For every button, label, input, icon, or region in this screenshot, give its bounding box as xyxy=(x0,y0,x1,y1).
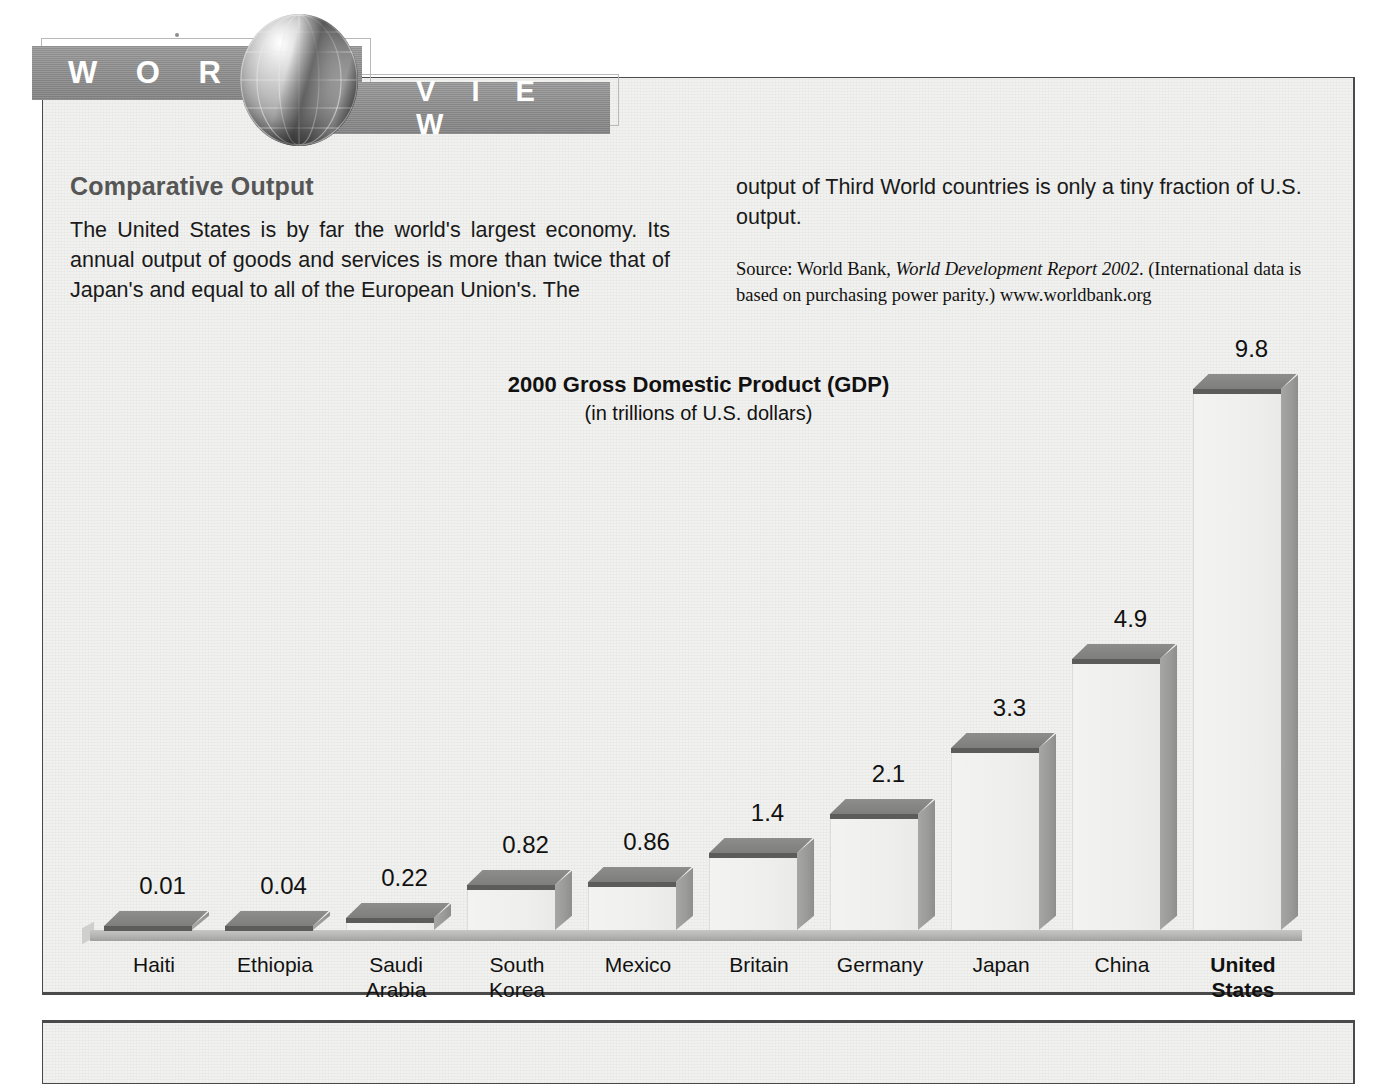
page-background: W O R L D V I E W xyxy=(0,0,1400,1084)
bar-front-face xyxy=(1193,389,1282,930)
bar-value-label: 3.3 xyxy=(957,694,1062,722)
chart-category-label: Germany xyxy=(818,952,942,977)
source-prefix: Source: World Bank, xyxy=(736,259,896,279)
chart-bar xyxy=(951,748,1039,930)
chart-category-label: Ethiopia xyxy=(213,952,337,977)
bar-top-face xyxy=(1193,374,1297,389)
bar-front-face xyxy=(830,814,919,930)
bar-top-face xyxy=(588,867,692,882)
bar-top-edge xyxy=(709,853,797,858)
bar-top-edge xyxy=(830,814,918,819)
page-title: Comparative Output xyxy=(70,172,670,201)
bar-value-label: 0.82 xyxy=(473,831,578,859)
bar-front-face xyxy=(951,748,1040,930)
globe-icon xyxy=(240,14,358,146)
bar-front-face xyxy=(588,882,677,930)
bar-side-face xyxy=(1281,374,1298,930)
masthead: W O R L D V I E W xyxy=(0,0,640,165)
bar-top-edge xyxy=(951,748,1039,753)
bar-front-face xyxy=(709,853,798,930)
bar-value-label: 2.1 xyxy=(836,760,941,788)
bar-top-face xyxy=(346,903,450,918)
bar-top-face xyxy=(104,911,208,926)
chart-category-label: Haiti xyxy=(92,952,216,977)
bar-top-face xyxy=(830,799,934,814)
registration-dot-icon xyxy=(175,33,179,37)
chart-bar xyxy=(830,814,918,930)
right-column: output of Third World countries is only … xyxy=(736,172,1336,308)
bar-top-edge xyxy=(588,882,676,887)
bar-top-edge xyxy=(225,926,313,931)
bar-side-face xyxy=(1039,733,1056,930)
bar-top-face xyxy=(951,733,1055,748)
bar-top-face xyxy=(467,870,571,885)
bar-top-face xyxy=(709,838,813,853)
bar-front-face xyxy=(467,885,556,930)
source-note: Source: World Bank, World Development Re… xyxy=(736,256,1336,308)
bar-side-face xyxy=(797,838,814,930)
chart-category-label: Mexico xyxy=(576,952,700,977)
chart-category-label: Britain xyxy=(697,952,821,977)
chart-bar xyxy=(1072,659,1160,930)
bar-top-edge xyxy=(104,926,192,931)
chart-plot-area: 0.01Haiti0.04Ethiopia0.22Saudi Arabia0.8… xyxy=(42,330,1355,990)
chart-category-label: United States xyxy=(1181,952,1305,1002)
chart-bar xyxy=(588,882,676,930)
next-section-panel xyxy=(42,1020,1355,1084)
bar-value-label: 0.04 xyxy=(231,872,336,900)
bar-value-label: 0.22 xyxy=(352,864,457,892)
bar-side-face xyxy=(918,800,935,930)
chart-category-label: Saudi Arabia xyxy=(334,952,458,1002)
chart-baseline-floor xyxy=(90,930,1302,941)
bar-side-face xyxy=(1160,645,1177,930)
chart-category-label: China xyxy=(1060,952,1184,977)
bar-value-label: 0.86 xyxy=(594,828,699,856)
chart-bar xyxy=(467,885,555,930)
globe-shading xyxy=(240,14,358,146)
chart-bar xyxy=(104,926,192,930)
bar-value-label: 1.4 xyxy=(715,799,820,827)
article-paragraph-right: output of Third World countries is only … xyxy=(736,172,1336,232)
chart-bar xyxy=(346,918,434,930)
chart-bar xyxy=(709,853,797,930)
chart-bar xyxy=(1193,389,1281,930)
masthead-view-text: V I E W xyxy=(416,75,610,141)
bar-top-edge xyxy=(467,885,555,890)
bar-top-face xyxy=(225,911,329,926)
chart-category-label: South Korea xyxy=(455,952,579,1002)
bar-top-face xyxy=(1072,644,1176,659)
bar-value-label: 9.8 xyxy=(1199,335,1304,363)
left-column: Comparative Output The United States is … xyxy=(70,172,670,305)
bar-value-label: 0.01 xyxy=(110,872,215,900)
article-paragraph-left: The United States is by far the world's … xyxy=(70,215,670,305)
bar-front-face xyxy=(1072,659,1161,930)
bar-top-edge xyxy=(1193,389,1281,394)
gdp-bar-chart: 2000 Gross Domestic Product (GDP) (in tr… xyxy=(42,330,1355,990)
bar-value-label: 4.9 xyxy=(1078,605,1183,633)
bar-top-edge xyxy=(346,918,434,923)
chart-bar xyxy=(225,926,313,930)
bar-top-edge xyxy=(1072,659,1160,664)
source-title: World Development Report 2002 xyxy=(896,259,1139,279)
chart-category-label: Japan xyxy=(939,952,1063,977)
